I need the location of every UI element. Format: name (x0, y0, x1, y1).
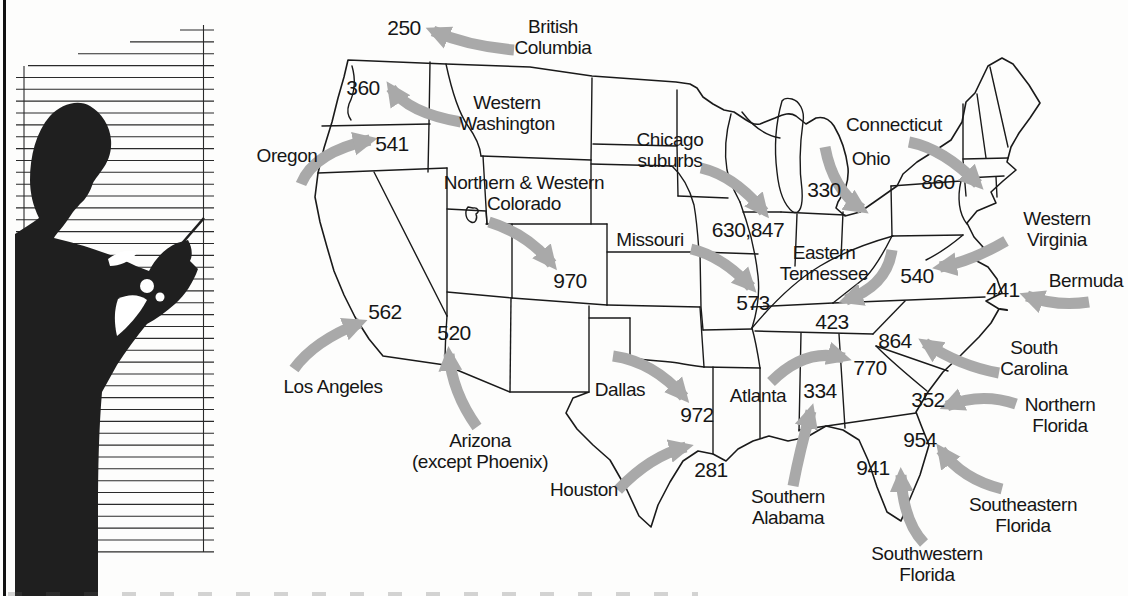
arrow-los-angeles (294, 323, 360, 369)
us-state-map (315, 58, 1040, 527)
callout-arrows (294, 31, 1089, 543)
arrow-northern-florida (947, 398, 1016, 406)
arrow-british-columbia (433, 31, 514, 50)
map-figure-svg (0, 0, 1128, 596)
arrow-southeastern-florida (941, 450, 1002, 489)
figure-canvas: British Columbia Western Washington Oreg… (0, 0, 1128, 596)
arrow-southern-alabama (793, 411, 811, 486)
arrow-connecticut (909, 142, 978, 184)
arrow-western-washington (391, 88, 461, 122)
arrow-arizona (449, 354, 477, 427)
arrow-oregon (301, 140, 370, 184)
arrow-colorado (489, 222, 552, 264)
arrow-eastern-tennessee (846, 250, 892, 300)
person-dialing-phone-silhouette (15, 103, 204, 596)
arrow-bermuda (1027, 296, 1089, 304)
arrow-atlanta (771, 355, 844, 382)
state-border-lines (318, 62, 1008, 454)
arrow-chicago-suburbs (701, 168, 764, 212)
arrow-south-carolina (925, 343, 999, 373)
arrow-ohio (825, 147, 862, 209)
arrow-southwestern-florida (901, 475, 924, 543)
arrow-houston (618, 447, 686, 490)
bermuda-island-dot (1000, 309, 1007, 310)
cropped-caption-remnant (8, 592, 698, 596)
